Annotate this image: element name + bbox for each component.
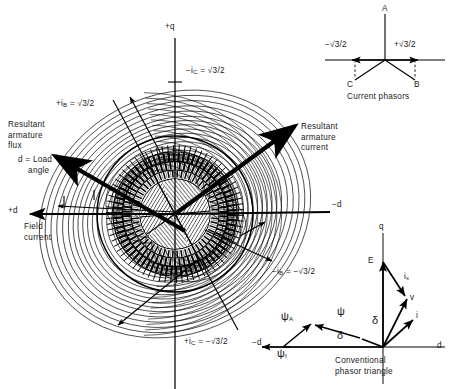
label-reactance-drop: ix	[404, 272, 409, 284]
label-voltage: v	[410, 293, 414, 304]
figure-canvas	[0, 0, 450, 389]
reactance-drop-vector	[383, 262, 405, 296]
triangle-axis-label-d-negative: −d	[252, 338, 262, 349]
label-ib-negative: −iB = −√3/2	[272, 267, 315, 279]
figure-root: +q −d +d −iC = √3/2 +iB = √3/2 +iC = −√3…	[0, 0, 450, 389]
label-flux-resultant: ψ	[337, 306, 345, 317]
label-emf: E	[368, 256, 374, 267]
phasor-c-vector	[355, 60, 385, 80]
label-resultant-armature-current: Resultant armature current	[301, 122, 338, 154]
label-current: i	[416, 311, 418, 322]
triangle-axis-label-d: d	[437, 341, 442, 352]
phasor-label-a: A	[382, 4, 388, 15]
flux-armature-vector	[283, 324, 311, 347]
label-flux-field: ψf	[277, 348, 287, 362]
axis-label-q-positive: +q	[165, 22, 175, 33]
current-vector	[383, 320, 413, 347]
label-ic-positive: +iC = −√3/2	[184, 337, 228, 349]
phasor-label-b: B	[414, 80, 420, 91]
axis-label-d-positive: +d	[8, 206, 18, 217]
voltage-vector	[383, 299, 407, 347]
phasor-value-negative: −√3/2	[325, 40, 347, 51]
flux-link-line	[362, 339, 383, 347]
current-phasors-caption: Current phasors	[347, 92, 409, 103]
label-flux-armature: ψA	[281, 311, 293, 325]
axis-label-d-negative: −d	[332, 200, 342, 211]
triangle-axis-label-q: q	[379, 222, 384, 233]
phasor-label-c: C	[347, 80, 353, 91]
phasor-b-vector	[385, 60, 415, 80]
phasor-value-positive: +√3/2	[394, 40, 416, 51]
label-delta-flux: δ	[337, 330, 343, 341]
label-ib-positive: +iB = √3/2	[56, 99, 94, 111]
label-resultant-armature-flux: Resultant armature flux	[8, 120, 45, 152]
label-load-angle: d = Load angle	[18, 155, 52, 176]
label-ic-negative: −iC = √3/2	[186, 66, 225, 78]
label-field-current: Field current	[24, 222, 51, 243]
label-delta-voltage: δ	[372, 315, 378, 326]
phasor-triangle-caption: Conventional phasor triangle	[335, 356, 393, 377]
